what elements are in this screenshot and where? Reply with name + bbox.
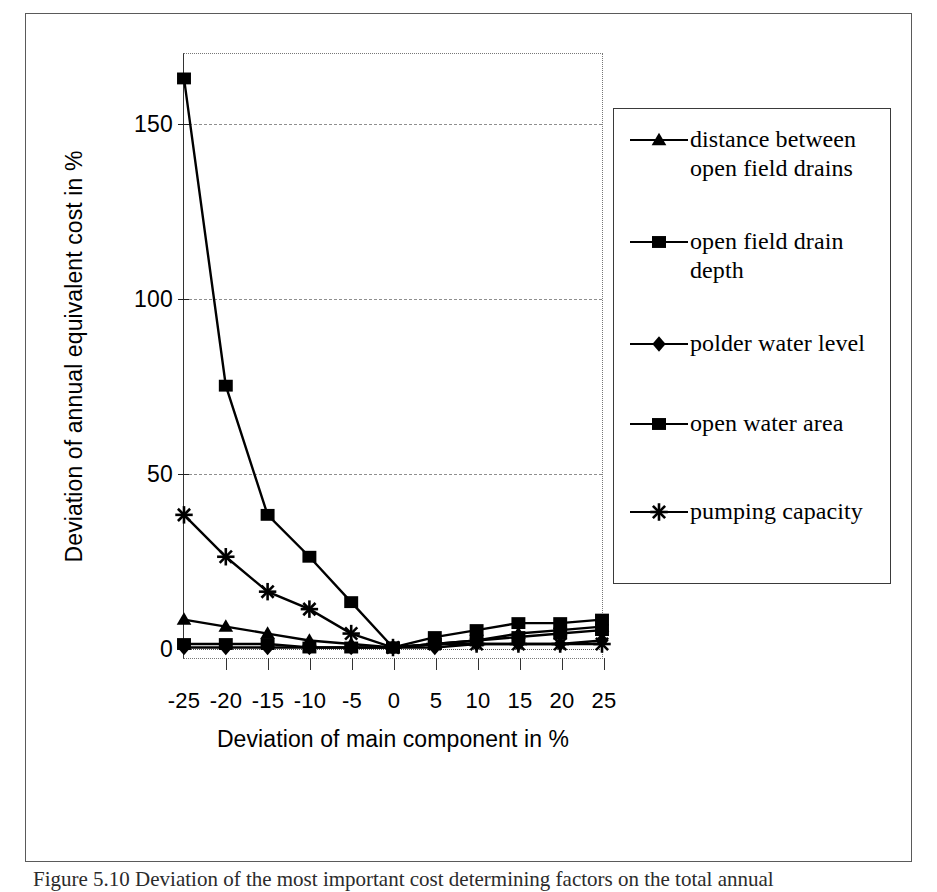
data-point-star bbox=[384, 639, 401, 656]
x-axis-title: Deviation of main component in % bbox=[183, 726, 603, 753]
data-point-square bbox=[344, 642, 358, 654]
series-open-field-drain-depth bbox=[177, 73, 609, 654]
data-point-square bbox=[302, 551, 316, 563]
y-axis-tick-label: 150 bbox=[134, 113, 173, 136]
legend-label: polder water level bbox=[690, 329, 865, 358]
data-point-square bbox=[595, 614, 609, 626]
legend-marker-star-icon bbox=[628, 499, 690, 525]
legend-marker-triangle-icon bbox=[628, 127, 690, 153]
chart-legend: distance between open field drainsopen f… bbox=[613, 108, 891, 584]
data-point-square bbox=[177, 638, 191, 650]
square-icon bbox=[646, 229, 672, 255]
x-axis-tick bbox=[436, 658, 437, 670]
series-line bbox=[184, 515, 602, 648]
y-axis-tick-label: 50 bbox=[147, 463, 173, 486]
data-point-star bbox=[301, 600, 318, 617]
legend-item-distance-between-open-field-drains[interactable]: distance between open field drains bbox=[628, 125, 882, 183]
chart-area: Deviation of annual equivalent cost in %… bbox=[26, 14, 913, 863]
x-axis-tick bbox=[226, 658, 227, 670]
data-point-star bbox=[593, 635, 610, 652]
data-point-square bbox=[652, 418, 666, 430]
square-icon bbox=[646, 411, 672, 437]
legend-item-open-water-area[interactable]: open water area bbox=[628, 409, 882, 438]
series-line bbox=[184, 78, 602, 647]
diamond-icon bbox=[646, 331, 672, 357]
data-point-square bbox=[344, 596, 358, 608]
data-point-square bbox=[553, 617, 567, 629]
legend-marker-square-icon bbox=[628, 229, 690, 255]
x-axis-tick-label: -5 bbox=[342, 690, 362, 712]
data-point-triangle bbox=[177, 612, 192, 625]
legend-item-polder-water-level[interactable]: polder water level bbox=[628, 329, 882, 358]
data-point-star bbox=[551, 635, 568, 652]
plot-inner: 050100150 -25-20-15-10-50510152025 bbox=[184, 54, 602, 658]
data-point-square bbox=[470, 624, 484, 636]
series-plot bbox=[184, 54, 602, 658]
data-point-square bbox=[511, 617, 525, 629]
data-point-square bbox=[219, 380, 233, 392]
data-point-square bbox=[219, 638, 233, 650]
x-axis-tick-label: 15 bbox=[508, 690, 533, 712]
plot-area: 050100150 -25-20-15-10-50510152025 bbox=[183, 53, 603, 659]
x-axis-tick-label: -10 bbox=[294, 690, 326, 712]
data-point-star bbox=[650, 503, 668, 521]
legend-label: open water area bbox=[690, 409, 843, 438]
data-point-square bbox=[302, 642, 316, 654]
x-axis-tick bbox=[352, 658, 353, 670]
data-point-square bbox=[652, 236, 666, 248]
x-axis-tick-label: 0 bbox=[388, 690, 400, 712]
legend-label: distance between open field drains bbox=[690, 125, 882, 183]
data-point-star bbox=[175, 506, 192, 523]
y-axis-tick-label: 0 bbox=[160, 638, 173, 661]
x-axis-tick-label: -20 bbox=[210, 690, 242, 712]
x-axis-tick bbox=[520, 658, 521, 670]
x-axis-tick-label: 20 bbox=[550, 690, 575, 712]
x-axis-tick bbox=[394, 658, 395, 670]
x-axis-tick-label: 5 bbox=[430, 690, 442, 712]
x-axis-tick bbox=[478, 658, 479, 670]
legend-label: open field drain depth bbox=[690, 227, 882, 285]
y-axis-tick-label: 100 bbox=[134, 288, 173, 311]
legend-marker-square-icon bbox=[628, 411, 690, 437]
x-axis-tick-label: -25 bbox=[168, 690, 200, 712]
x-axis-tick bbox=[604, 658, 605, 670]
figure-caption: Figure 5.10 Deviation of the most import… bbox=[33, 866, 913, 892]
x-axis-tick bbox=[268, 658, 269, 670]
data-point-square bbox=[595, 624, 609, 636]
y-axis-title: Deviation of annual equivalent cost in % bbox=[58, 53, 92, 659]
data-point-triangle bbox=[652, 133, 667, 146]
star-icon bbox=[646, 499, 672, 525]
data-point-square bbox=[177, 73, 191, 85]
legend-item-pumping-capacity[interactable]: pumping capacity bbox=[628, 497, 882, 526]
x-axis-tick-label: -15 bbox=[252, 690, 284, 712]
x-axis-tick bbox=[310, 658, 311, 670]
y-axis-title-text: Deviation of annual equivalent cost in % bbox=[62, 150, 89, 562]
data-point-diamond bbox=[652, 336, 665, 351]
triangle-icon bbox=[646, 127, 672, 153]
figure-frame: Deviation of annual equivalent cost in %… bbox=[25, 13, 912, 862]
x-axis-tick-label: 10 bbox=[466, 690, 491, 712]
legend-label: pumping capacity bbox=[690, 497, 863, 526]
x-axis-tick bbox=[562, 658, 563, 670]
x-axis-tick-label: 25 bbox=[592, 690, 617, 712]
legend-marker-diamond-icon bbox=[628, 331, 690, 357]
data-point-star bbox=[426, 635, 443, 652]
data-point-square bbox=[261, 509, 275, 521]
legend-item-open-field-drain-depth[interactable]: open field drain depth bbox=[628, 227, 882, 285]
data-point-square bbox=[261, 638, 275, 650]
data-point-star bbox=[342, 625, 359, 642]
